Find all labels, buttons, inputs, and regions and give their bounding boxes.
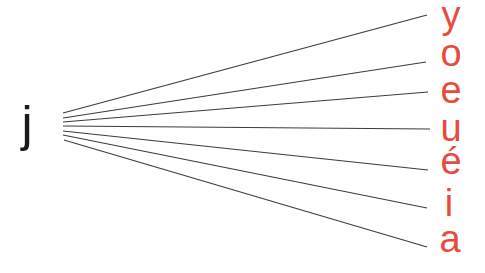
connector-line-i	[63, 135, 427, 208]
connector-line-a	[64, 140, 427, 247]
connector-line-o	[63, 62, 426, 118]
connector-line-e-acute	[63, 131, 428, 170]
connector-line-e	[63, 92, 428, 122]
target-letter-y: y	[442, 0, 461, 36]
target-letters: y o e u é i a	[439, 0, 461, 260]
diagram-canvas: j y o e u é i a	[0, 0, 485, 273]
source-letter: j	[19, 96, 32, 152]
target-letter-e-acute: é	[440, 140, 461, 182]
target-letter-a: a	[439, 218, 461, 260]
fan-diagram: j y o e u é i a	[0, 0, 485, 273]
connector-lines	[63, 15, 430, 247]
connector-line-y	[63, 15, 427, 113]
target-letter-e: e	[440, 69, 461, 111]
target-letter-o: o	[440, 32, 461, 74]
connector-line-u	[63, 126, 430, 129]
